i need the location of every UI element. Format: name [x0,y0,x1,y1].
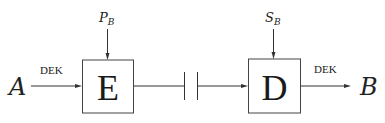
output-edge-label: DEK [314,63,337,75]
decrypt-block: D [249,59,301,113]
encrypt-block-label: E [97,68,119,108]
decrypt-key-main: S [265,10,274,25]
sink-node-label: B [359,73,378,101]
input-edge-label: DEK [40,64,63,76]
encrypt-block: E [83,60,134,113]
encrypt-key-arrow [106,29,110,60]
source-node-label: A [7,73,26,101]
encrypt-key-main: P [98,10,108,25]
output-arrow [301,84,351,88]
decrypt-key-label: SB [265,10,281,27]
input-arrow [31,84,82,88]
encryption-diagram: A DEK PB E SB D [0,0,385,123]
decrypt-key-arrow [272,29,276,59]
decrypt-block-label: D [262,68,288,108]
encrypt-key-subscript: B [107,17,115,27]
channel-arrow [197,84,248,88]
encrypt-key-label: PB [98,10,115,27]
channel-break-icon [185,72,198,100]
decrypt-key-subscript: B [273,17,281,27]
